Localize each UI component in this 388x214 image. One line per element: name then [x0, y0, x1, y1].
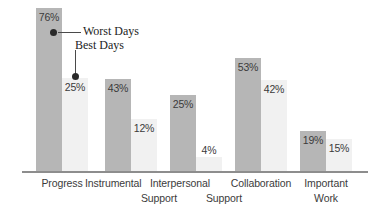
bar-worst-instrumental-support[interactable]: 43%: [105, 79, 131, 172]
bar-value-worst-instrumental-support: 43%: [105, 82, 131, 94]
bar-worst-important-work[interactable]: 19%: [300, 131, 326, 172]
bar-value-worst-progress: 76%: [36, 11, 62, 23]
bar-value-best-important-work: 15%: [326, 142, 352, 154]
x-axis-line: [22, 171, 368, 173]
bar-value-best-interpersonal-support: 4%: [196, 144, 222, 156]
bar-best-interpersonal-support[interactable]: 4%: [196, 157, 222, 172]
plot-area: 76% 25% 43% 12% 25% 4% 53%: [0, 0, 388, 172]
bar-value-worst-collaboration: 53%: [235, 61, 261, 73]
bar-group-important-work: 19% 15%: [300, 0, 352, 172]
bar-best-instrumental-support[interactable]: 12%: [131, 119, 157, 172]
bar-best-collaboration[interactable]: 42%: [261, 80, 287, 172]
category-label-line: Work: [280, 191, 372, 206]
category-label-important-work: Important Work: [280, 176, 372, 206]
bar-value-best-instrumental-support: 12%: [131, 122, 157, 134]
bar-chart: 76% 25% 43% 12% 25% 4% 53%: [0, 0, 388, 214]
bar-value-worst-interpersonal-support: 25%: [170, 98, 196, 110]
category-label-line: Support: [150, 191, 242, 206]
bar-group-interpersonal-support: 25% 4%: [170, 0, 222, 172]
bar-value-best-progress: 25%: [62, 81, 88, 93]
bar-value-best-collaboration: 42%: [261, 83, 287, 95]
bar-group-instrumental-support: 43% 12%: [105, 0, 157, 172]
category-axis-labels: Progress Instrumental Support Interperso…: [0, 176, 388, 214]
bar-best-important-work[interactable]: 15%: [326, 139, 352, 172]
bar-worst-progress[interactable]: 76%: [36, 8, 62, 172]
bar-worst-interpersonal-support[interactable]: 25%: [170, 95, 196, 172]
bar-value-worst-important-work: 19%: [300, 134, 326, 146]
category-label-line: Important: [280, 176, 372, 191]
bar-best-progress[interactable]: 25%: [62, 78, 88, 172]
bar-group-progress: 76% 25%: [36, 0, 88, 172]
bar-worst-collaboration[interactable]: 53%: [235, 58, 261, 172]
bar-group-collaboration: 53% 42%: [235, 0, 287, 172]
